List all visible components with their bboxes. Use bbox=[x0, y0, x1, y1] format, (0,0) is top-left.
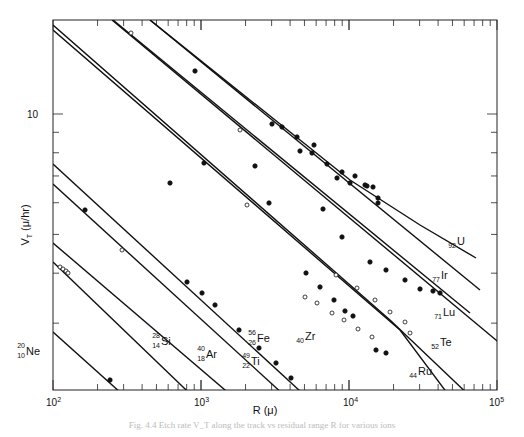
data-point bbox=[376, 196, 380, 200]
svg-text:28: 28 bbox=[152, 332, 160, 339]
data-point bbox=[343, 309, 347, 313]
velocity-range-chart: 2010Ne2814Si4018Ar4922Ti5626Fe40Zr44Ru52… bbox=[0, 0, 524, 437]
label-ir: 77Ir bbox=[432, 269, 448, 283]
label-ti: 4922Ti bbox=[242, 352, 260, 369]
curve-labels: 2010Ne2814Si4018Ar4922Ti5626Fe40Zr44Ru52… bbox=[17, 235, 465, 379]
data-point bbox=[253, 164, 257, 168]
label-si: 2814Si bbox=[152, 332, 171, 349]
data-point bbox=[267, 201, 271, 205]
data-point bbox=[193, 69, 197, 73]
data-point bbox=[213, 303, 217, 307]
svg-text:49: 49 bbox=[242, 352, 250, 359]
data-point bbox=[342, 318, 346, 322]
data-point bbox=[418, 287, 422, 291]
data-point bbox=[370, 335, 374, 339]
data-point bbox=[200, 291, 204, 295]
data-point bbox=[83, 208, 87, 212]
data-point bbox=[373, 298, 377, 302]
label-ne: 2010Ne bbox=[17, 342, 40, 359]
x-tick-label: 102 bbox=[46, 396, 61, 408]
data-point bbox=[431, 289, 435, 293]
data-point bbox=[321, 207, 325, 211]
curve-te bbox=[112, 20, 520, 360]
data-point bbox=[368, 260, 372, 264]
data-point bbox=[168, 181, 172, 185]
data-point bbox=[270, 122, 274, 126]
data-point bbox=[298, 149, 302, 153]
data-point bbox=[403, 278, 407, 282]
svg-text:18: 18 bbox=[197, 355, 205, 362]
label-lu: 71Lu bbox=[434, 306, 455, 320]
data-point bbox=[304, 271, 308, 275]
svg-text:20: 20 bbox=[17, 342, 25, 349]
curve-ir bbox=[150, 20, 480, 290]
data-point bbox=[295, 135, 299, 139]
data-point bbox=[376, 201, 380, 205]
data-point bbox=[356, 327, 360, 331]
svg-text:10: 10 bbox=[17, 352, 25, 359]
curve-ti bbox=[53, 184, 330, 437]
ion-curves bbox=[53, 20, 520, 437]
data-point bbox=[330, 311, 334, 315]
data-point bbox=[289, 376, 293, 380]
svg-text:92: 92 bbox=[448, 242, 456, 249]
data-point bbox=[237, 328, 241, 332]
data-point bbox=[66, 271, 70, 275]
data-point bbox=[351, 314, 355, 318]
data-point bbox=[238, 128, 242, 132]
data-point bbox=[355, 286, 359, 290]
data-point bbox=[245, 203, 249, 207]
x-tick-label: 103 bbox=[194, 396, 209, 408]
label-ru: 44Ru bbox=[409, 365, 432, 379]
data-point bbox=[332, 298, 336, 302]
x-axis-label: R (μ) bbox=[253, 404, 278, 416]
curve-u bbox=[150, 20, 476, 258]
y-tick-label: 10 bbox=[27, 109, 39, 120]
plot-frame bbox=[53, 20, 497, 390]
data-point bbox=[108, 378, 112, 382]
data-point bbox=[348, 181, 352, 185]
svg-text:14: 14 bbox=[152, 342, 160, 349]
data-point bbox=[384, 351, 388, 355]
figure-caption: Fig. 4.4 Etch rate V_T along the track v… bbox=[0, 420, 524, 430]
svg-text:56: 56 bbox=[248, 329, 256, 336]
data-point bbox=[363, 183, 367, 187]
x-axis-ticks bbox=[53, 20, 497, 390]
label-ar: 4018Ar bbox=[197, 345, 217, 362]
data-point bbox=[334, 273, 338, 277]
curve-ru bbox=[53, 25, 495, 420]
data-point bbox=[403, 320, 407, 324]
data-point bbox=[335, 176, 339, 180]
svg-text:26: 26 bbox=[248, 339, 256, 346]
svg-text:Ir: Ir bbox=[441, 269, 448, 281]
svg-text:U: U bbox=[457, 235, 465, 247]
data-point bbox=[438, 291, 442, 295]
data-point bbox=[310, 151, 314, 155]
data-point bbox=[384, 268, 388, 272]
y-axis-label: VT (μ/hr) bbox=[19, 204, 33, 245]
svg-text:Ru: Ru bbox=[418, 365, 432, 377]
data-point bbox=[274, 361, 278, 365]
svg-text:Ar: Ar bbox=[206, 348, 217, 360]
svg-text:71: 71 bbox=[434, 313, 442, 320]
data-point bbox=[340, 170, 344, 174]
data-point bbox=[408, 331, 412, 335]
data-point bbox=[257, 346, 261, 350]
svg-text:40: 40 bbox=[296, 337, 304, 344]
label-te: 52Te bbox=[431, 336, 451, 350]
x-tick-label: 104 bbox=[343, 396, 358, 408]
data-point bbox=[280, 125, 284, 129]
data-point bbox=[185, 280, 189, 284]
x-tick-label: 105 bbox=[489, 396, 504, 408]
data-point bbox=[325, 162, 329, 166]
svg-text:Fe: Fe bbox=[257, 332, 270, 344]
data-point bbox=[202, 161, 206, 165]
svg-text:Si: Si bbox=[161, 335, 171, 347]
label-fe: 5626Fe bbox=[248, 329, 270, 346]
data-point bbox=[303, 295, 307, 299]
data-point bbox=[371, 185, 375, 189]
data-point bbox=[388, 310, 392, 314]
label-u: 92U bbox=[448, 235, 465, 249]
svg-text:40: 40 bbox=[197, 345, 205, 352]
data-point bbox=[340, 235, 344, 239]
